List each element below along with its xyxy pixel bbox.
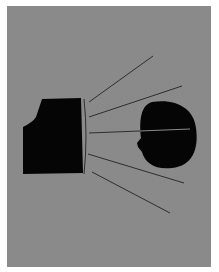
head-silhouette [137, 101, 197, 168]
illustration [0, 0, 219, 272]
